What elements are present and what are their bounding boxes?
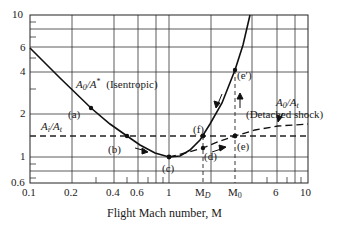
isentropic-sup: * [97,77,101,86]
isentropic-note: (Isentropic) [106,78,157,90]
x-tick-md-sub: D [205,191,211,200]
y-tick-1: 1 [20,151,26,162]
y-tick-4: 4 [20,66,26,77]
ai-a: A [41,120,48,132]
point-e-prime-label: (e′) [237,70,252,81]
x-tick-m0-text: M [228,186,238,198]
y-tick-6: 6 [20,42,26,53]
x-tick-6: 6 [273,187,279,198]
point-b-label: (b) [108,144,121,155]
x-tick-0-4: 0.4 [106,187,120,198]
x-tick-10: 10 [300,187,311,198]
a0at-slash: /A [287,96,297,108]
isentropic-slash: /A [87,78,97,90]
a0at-a: A [276,96,283,108]
ai-at-label: Ai/At [41,121,62,132]
x-tick-0-2: 0.2 [64,187,78,198]
ai-slash: /A [50,120,60,132]
x-tick-1: 1 [166,187,172,198]
a0-at-label: A0/At [276,97,299,108]
ai-sub2: t [60,125,62,134]
x-tick-md-text: M [195,186,205,198]
point-c-label: (c) [162,163,174,174]
minor-ticks [30,22,301,183]
detached-shock-label: (Detached shock) [246,109,323,120]
x-tick-0-1: 0.1 [22,187,36,198]
x-tick-md: MD [195,187,211,198]
point-d-label: (d) [204,151,217,162]
x-tick-m0-sub: 0 [238,191,242,200]
x-axis-label: Flight Mach number, M [107,208,222,219]
point-f-label: (f) [193,124,204,135]
y-tick-2: 2 [20,108,26,119]
point-a-label: (a) [68,109,80,120]
isentropic-label: A0/A* (Isentropic) [76,79,158,90]
isentropic-a: A [76,78,83,90]
arrows [135,93,283,154]
x-tick-0-6: 0.6 [130,187,144,198]
point-e-label: (e) [237,141,249,152]
y-tick-10: 10 [12,9,23,20]
x-tick-m0: M0 [228,187,242,198]
